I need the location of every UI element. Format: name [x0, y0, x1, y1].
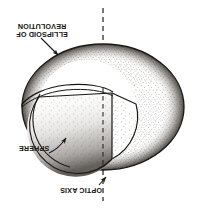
label-ellipsoid-of-revolution: ELLIPSOID OF REVOLUTION — [13, 21, 71, 38]
figure-root: ELLIPSOID OF REVOLUTION SPHERE OPTIC AXI… — [0, 0, 198, 211]
label-ellipsoid-line2: REVOLUTION — [13, 21, 71, 29]
label-sphere: SPHERE — [17, 144, 51, 152]
ellipsoid-leader — [41, 38, 58, 55]
label-ellipsoid-line1: ELLIPSOID OF — [13, 29, 71, 37]
label-optic-axis: OPTIC AXIS — [57, 186, 105, 194]
